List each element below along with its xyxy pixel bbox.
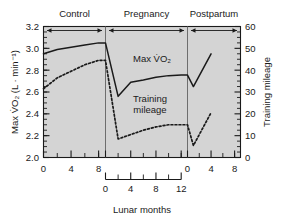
pregnancy-sub-axis-tick-label: 12 [176, 183, 187, 194]
right-axis-tick-label: 60 [245, 21, 256, 32]
right-axis-title: Training mileage [261, 57, 272, 127]
pregnancy-sub-axis-tick-label: 0 [103, 183, 108, 194]
bottom-axis-tick-label: 0 [185, 163, 190, 174]
left-axis-tick-label: 3.2 [26, 21, 39, 32]
left-axis-tick-label: 2.8 [26, 65, 39, 76]
phase-label-pregnancy: Pregnancy [124, 8, 170, 19]
annotation-label-1: Training [133, 93, 167, 104]
right-axis-tick-label: 50 [245, 43, 256, 54]
left-axis-tick-label: 2.6 [26, 86, 39, 97]
left-axis-tick-label: 2.2 [26, 130, 39, 141]
annotation-label-0: Max V̇O₂ [133, 53, 171, 64]
bottom-axis-tick-label: 8 [232, 163, 237, 174]
pregnancy-sub-axis-tick-label: 8 [153, 183, 158, 194]
right-axis-tick-label: 20 [245, 108, 256, 119]
right-axis-tick-label: 40 [245, 65, 256, 76]
left-axis-tick-label: 2.4 [26, 108, 39, 119]
bottom-axis-tick-label: 8 [96, 163, 101, 174]
chart-figure: 2.02.22.42.62.83.03.2Max V̇O₂ (L · min⁻¹… [0, 0, 287, 223]
right-axis-tick-label: 0 [245, 152, 250, 163]
left-axis-title: Max V̇O₂ (L · min⁻¹) [9, 50, 20, 134]
bottom-axis-tick-label: 4 [208, 163, 213, 174]
annotation-label-2: mileage [133, 104, 166, 115]
phase-label-postpartum: Postpartum [190, 8, 239, 19]
right-axis-tick-label: 30 [245, 86, 256, 97]
plot-area-background [44, 27, 241, 158]
vo2-training-mileage-chart: 2.02.22.42.62.83.03.2Max V̇O₂ (L · min⁻¹… [0, 0, 287, 223]
left-axis-tick-label: 3.0 [26, 43, 39, 54]
bottom-axis-tick-label: 4 [68, 163, 73, 174]
phase-label-control: Control [59, 8, 90, 19]
x-axis-title: Lunar months [113, 204, 171, 215]
pregnancy-sub-axis-tick-label: 4 [128, 183, 133, 194]
right-axis-tick-label: 10 [245, 130, 256, 141]
pregnancy-sub-axis: 04812 [103, 173, 187, 194]
left-axis-tick-label: 2.0 [26, 152, 39, 163]
bottom-axis-tick-label: 0 [41, 163, 46, 174]
